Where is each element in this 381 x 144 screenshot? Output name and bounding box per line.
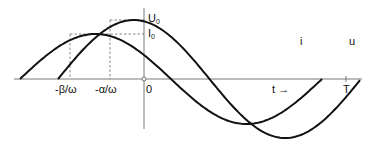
- beta-phase-label: -β/ω: [55, 84, 77, 95]
- time-arrow-icon: →: [278, 83, 289, 95]
- origin-marker: [142, 77, 146, 81]
- origin-label: 0: [146, 84, 152, 95]
- curve-u-label: u: [349, 36, 355, 47]
- i0-label: I0: [148, 28, 155, 40]
- time-label: t →: [272, 84, 289, 95]
- alpha-phase-label: -α/ω: [95, 84, 117, 95]
- curve-i-label: i: [300, 36, 302, 47]
- period-label: T: [343, 84, 350, 95]
- ac-phase-diagram: [0, 0, 381, 144]
- u0-label: U0: [148, 13, 160, 25]
